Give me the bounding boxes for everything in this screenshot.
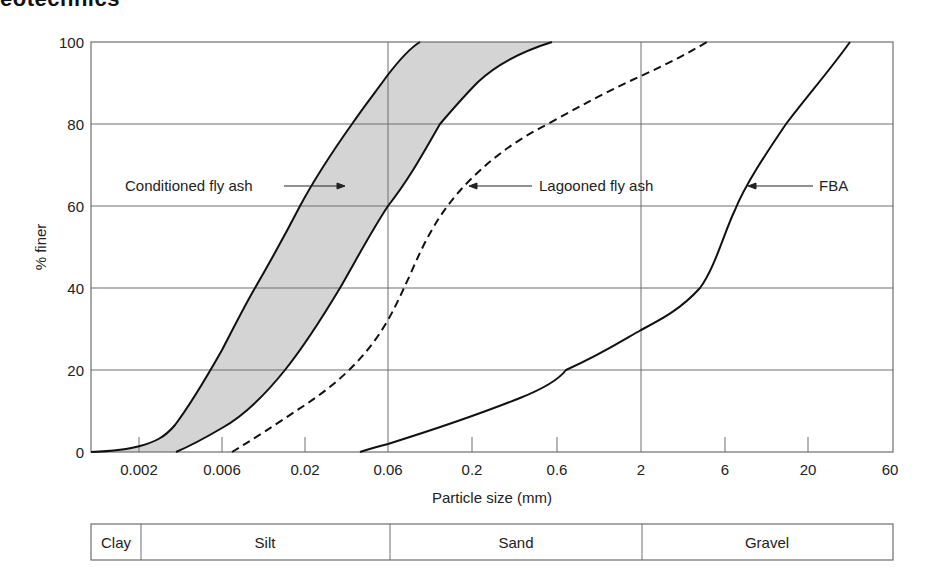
svg-text:40: 40 [67,280,84,297]
svg-text:0.002: 0.002 [120,461,158,478]
svg-text:100: 100 [59,34,84,51]
svg-text:2: 2 [637,461,645,478]
svg-text:6: 6 [721,461,729,478]
class-gravel: Gravel [745,534,789,551]
lagooned-fly-ash-label: Lagooned fly ash [539,177,653,194]
x-axis-title: Particle size (mm) [432,489,552,506]
y-axis-title: % finer [32,224,49,271]
svg-text:60: 60 [67,198,84,215]
soil-classification-table: Clay Silt Sand Gravel [91,524,893,560]
class-sand: Sand [498,534,533,551]
svg-text:0.06: 0.06 [373,461,402,478]
particle-size-chart: Conditioned fly ash Lagooned fly ash FBA… [0,0,930,585]
svg-text:20: 20 [67,362,84,379]
conditioned-fly-ash-band [91,42,552,452]
svg-text:0.02: 0.02 [290,461,319,478]
class-clay: Clay [101,534,132,551]
svg-text:0.006: 0.006 [203,461,241,478]
conditioned-fly-ash-label: Conditioned fly ash [125,177,253,194]
horizontal-gridlines [91,124,893,370]
fba-label: FBA [819,177,848,194]
svg-text:20: 20 [800,461,817,478]
arrow-left-icon [748,183,756,189]
svg-text:0.2: 0.2 [462,461,483,478]
svg-text:60: 60 [882,461,899,478]
y-axis-ticks: 100 80 60 40 20 0 [59,34,84,461]
svg-text:80: 80 [67,116,84,133]
svg-text:0: 0 [76,444,84,461]
class-silt: Silt [255,534,277,551]
x-minor-ticks [139,437,808,452]
arrow-left-icon [469,183,477,189]
svg-text:0.6: 0.6 [547,461,568,478]
x-axis-ticks: 0.002 0.006 0.02 0.06 0.2 0.6 2 6 20 60 [120,461,898,478]
